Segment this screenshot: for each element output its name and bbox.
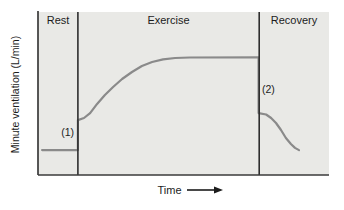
time-arrow-icon xyxy=(187,185,223,195)
annotation-offset-step: (2) xyxy=(262,83,275,95)
phase-label-exercise: Exercise xyxy=(78,14,259,26)
plot-area-background xyxy=(38,12,329,175)
plot-canvas xyxy=(0,0,344,210)
phase-label-rest: Rest xyxy=(38,14,78,26)
y-axis-label: Minute ventilation (L/min) xyxy=(9,15,24,175)
ventilation-figure: Rest Exercise Recovery Minute ventilatio… xyxy=(0,0,344,210)
x-axis-label-group: Time xyxy=(140,184,240,196)
x-axis-label: Time xyxy=(157,184,181,196)
annotation-onset-step: (1) xyxy=(46,126,74,138)
phase-label-recovery: Recovery xyxy=(259,14,329,26)
